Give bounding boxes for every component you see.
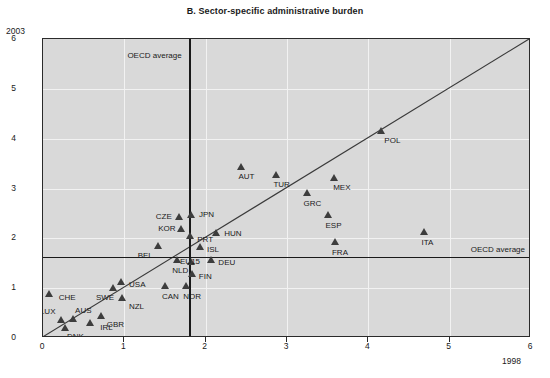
y-tick-label: 1 <box>0 282 16 292</box>
data-point-marker-isl <box>196 243 204 250</box>
x-tick-mark <box>449 337 450 342</box>
data-point-marker-nzl <box>118 294 126 301</box>
data-point-label-cze: CZE <box>156 212 172 221</box>
data-point-label-jpn: JPN <box>199 210 214 219</box>
y-tick-label: 5 <box>0 83 16 93</box>
data-point-label-fin: FIN <box>199 272 212 281</box>
data-point-marker-swe <box>109 284 117 291</box>
data-point-marker-ita <box>420 228 428 235</box>
y-tick-label: 3 <box>0 183 16 193</box>
data-point-marker-hun <box>212 229 220 236</box>
data-point-marker-mex <box>330 174 338 181</box>
data-point-label-aus: AUS <box>75 306 91 315</box>
data-point-label-mex: MEX <box>333 183 350 192</box>
x-tick-label: 5 <box>437 341 461 351</box>
oecd-average-vertical-label: OECD average <box>127 51 181 60</box>
data-point-marker-fin <box>188 270 196 277</box>
data-point-marker-aut <box>237 163 245 170</box>
data-point-marker-fra <box>331 238 339 245</box>
data-point-marker-pol <box>377 127 385 134</box>
data-point-marker-bel <box>154 242 162 249</box>
data-point-marker-nor <box>182 282 190 289</box>
y-tick-label: 4 <box>0 133 16 143</box>
data-point-label-aut: AUT <box>238 172 254 181</box>
data-point-label-dnk: DNK <box>67 332 84 336</box>
data-point-marker-prt <box>186 232 194 239</box>
y-tick-label: 0 <box>0 332 16 342</box>
page-title: B. Sector-specific administrative burden <box>0 6 550 16</box>
data-point-marker-dnk <box>61 324 69 331</box>
data-point-label-esp: ESP <box>325 221 341 230</box>
data-point-label-lux: LUX <box>43 307 55 316</box>
data-point-marker-kor <box>177 225 185 232</box>
x-tick-label: 2 <box>193 341 217 351</box>
x-tick-label: 1 <box>111 341 135 351</box>
data-point-marker-grc <box>303 189 311 196</box>
data-point-marker-usa <box>117 278 125 285</box>
data-point-marker-esp <box>324 211 332 218</box>
data-point-marker-jpn <box>187 211 195 218</box>
oecd-average-horizontal-label: OECD average <box>471 245 525 254</box>
x-tick-mark <box>123 337 124 342</box>
data-point-label-grc: GRC <box>304 199 322 208</box>
data-point-label-che: CHE <box>59 293 76 302</box>
plot-inner: OECD averageOECD average CHELUXAUSDNKIRL… <box>43 39 529 336</box>
data-point-label-deu: DEU <box>218 258 235 267</box>
x-axis-label: 1998 <box>502 356 521 366</box>
data-point-marker-gbr <box>97 312 105 319</box>
x-tick-label: 3 <box>274 341 298 351</box>
data-point-marker-lux <box>57 316 65 323</box>
x-tick-mark <box>286 337 287 342</box>
data-point-label-usa: USA <box>129 280 145 289</box>
plot-area: OECD averageOECD average CHELUXAUSDNKIRL… <box>42 38 530 337</box>
data-point-label-eu15: EU15 <box>180 257 200 266</box>
data-point-marker-irl <box>86 319 94 326</box>
x-tick-mark <box>205 337 206 342</box>
data-point-label-nor: NOR <box>183 292 201 301</box>
x-tick-label: 6 <box>518 341 542 351</box>
data-point-label-nzl: NZL <box>129 302 144 311</box>
data-point-label-hun: HUN <box>224 229 241 238</box>
data-point-marker-aus <box>69 315 77 322</box>
data-point-label-kor: KOR <box>158 224 175 233</box>
data-point-label-tur: TUR <box>273 180 289 189</box>
data-point-label-isl: ISL <box>207 245 219 254</box>
data-point-label-can: CAN <box>162 292 179 301</box>
data-point-label-nld: NLD <box>172 266 188 275</box>
data-point-label-ita: ITA <box>421 238 433 247</box>
data-point-marker-cze <box>175 213 183 220</box>
data-point-marker-tur <box>272 171 280 178</box>
x-tick-label: 4 <box>355 341 379 351</box>
data-point-label-gbr: GBR <box>107 320 124 329</box>
data-point-label-bel: BEL <box>138 251 153 260</box>
data-point-label-fra: FRA <box>332 248 348 257</box>
y-tick-label: 6 <box>0 33 16 43</box>
data-point-marker-che <box>45 290 53 297</box>
data-point-label-pol: POL <box>384 136 400 145</box>
y-tick-label: 2 <box>0 232 16 242</box>
data-point-marker-deu <box>207 256 215 263</box>
data-point-marker-can <box>161 282 169 289</box>
oecd-average-horizontal <box>43 257 529 258</box>
x-tick-label: 0 <box>30 341 54 351</box>
data-point-label-swe: SWE <box>96 293 114 302</box>
x-tick-mark <box>367 337 368 342</box>
